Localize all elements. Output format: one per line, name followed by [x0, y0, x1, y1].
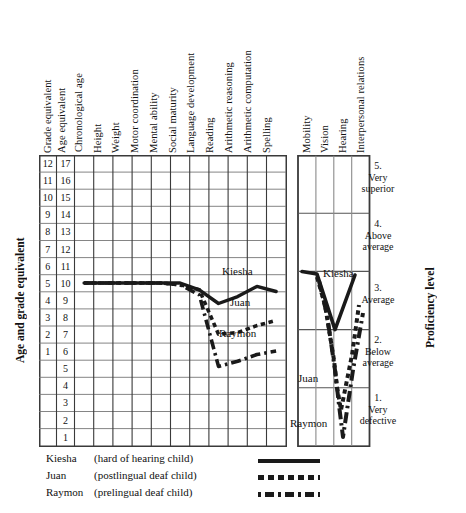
grade-cell: 7: [39, 241, 57, 258]
grade-cell: 5: [39, 275, 57, 292]
column-header-hearing: Hearing: [338, 108, 349, 153]
column-header-arithmetic-computation: Arithmetic computation: [243, 36, 254, 153]
age-cell: 3: [57, 394, 75, 411]
age-equivalent-header: Age equivalent: [57, 70, 68, 153]
age-cell: 5: [57, 360, 75, 377]
series-tag-raymon-right: Raymon: [290, 417, 327, 429]
series-tag-raymon-left: Raymon: [219, 327, 256, 339]
age-cell: 6: [57, 343, 75, 360]
age-cell: 15: [57, 189, 75, 206]
grade-cell: 4: [39, 292, 57, 309]
column-header-mental-ability: Mental ability: [149, 72, 160, 153]
age-cell: 1: [57, 429, 75, 446]
legend-name-juan: Juan: [46, 469, 66, 481]
age-cell: 4: [57, 377, 75, 394]
figure-root: Age and grade equivalent Proficiency lev…: [0, 0, 466, 513]
legend-swatch-dashdot-icon: [258, 492, 320, 497]
age-cell: 14: [57, 206, 75, 223]
grade-cell: 6: [39, 258, 57, 275]
series-tag-juan-right: Juan: [298, 372, 318, 384]
grade-equivalent-header: Grade equivalent: [43, 63, 54, 153]
series-tag-kiesha-left: Kiesha: [222, 265, 253, 277]
legend-desc-juan: (postlingual deaf child): [94, 469, 197, 481]
proficiency-level-2-line1: Below: [336, 346, 420, 358]
series-tag-kiesha-right: Kiesha: [323, 267, 354, 279]
grade-cell: 2: [39, 326, 57, 343]
proficiency-level-3-line1: Average: [336, 294, 420, 306]
grade-cell: 10: [39, 189, 57, 206]
proficiency-level-3: 3. Average: [336, 282, 420, 305]
proficiency-level-2-number: 2.: [336, 334, 420, 346]
column-header-motor-coordination: Motor coordination: [130, 52, 141, 153]
grade-cell: 12: [39, 155, 57, 172]
proficiency-level-4-line1: Above: [336, 230, 420, 242]
column-header-reading: Reading: [205, 104, 216, 153]
proficiency-level-5-number: 5.: [336, 160, 420, 172]
proficiency-level-4-number: 4.: [336, 218, 420, 230]
proficiency-level-5-line2: superior: [336, 183, 420, 195]
legend-name-raymon: Raymon: [46, 486, 83, 498]
age-cell: 9: [57, 292, 75, 309]
column-header-vision: Vision: [320, 113, 331, 153]
proficiency-level-1-number: 1.: [336, 392, 420, 404]
column-header-language-development: Language development: [186, 40, 197, 153]
grade-cell: 9: [39, 206, 57, 223]
proficiency-level-3-number: 3.: [336, 282, 420, 294]
age-cell: 10: [57, 275, 75, 292]
age-cell: 2: [57, 412, 75, 429]
column-header-spelling: Spelling: [262, 106, 273, 153]
age-cell: 16: [57, 172, 75, 189]
age-cell: 12: [57, 241, 75, 258]
legend-desc-raymon: (prelingual deaf child): [94, 486, 192, 498]
grade-cell: 1: [39, 343, 57, 360]
legend-row-kiesha: Kiesha (hard of hearing child): [46, 452, 346, 469]
column-header-arithmetic-reasoning: Arithmetic reasoning: [224, 43, 235, 153]
proficiency-level-5-line1: Very: [336, 172, 420, 184]
column-header-height: Height: [93, 110, 104, 153]
grade-cell: 11: [39, 172, 57, 189]
proficiency-level-4-line2: average: [336, 241, 420, 253]
column-header-mobility: Mobility: [302, 104, 313, 153]
age-cell: 8: [57, 309, 75, 326]
legend-swatch-solid-icon: [258, 459, 320, 463]
proficiency-level-2-line2: average: [336, 357, 420, 369]
right-axis-title: Proficiency level: [424, 228, 436, 348]
age-cell: 17: [57, 155, 75, 172]
left-axis-title: Age and grade equivalent: [14, 243, 26, 363]
proficiency-level-1-line1: Very: [336, 404, 420, 416]
legend-row-juan: Juan (postlingual deaf child): [46, 469, 346, 486]
column-header-social-maturity: Social maturity: [168, 71, 179, 153]
age-cell: 7: [57, 326, 75, 343]
column-header-interpersonal-relations: Interpersonal relations: [356, 50, 367, 153]
proficiency-level-2: 2. Below average: [336, 334, 420, 369]
proficiency-level-1: 1. Very defective: [336, 392, 420, 427]
proficiency-level-4: 4. Above average: [336, 218, 420, 253]
column-header-weight: Weight: [111, 109, 122, 153]
legend-swatch-dotted-icon: [258, 475, 320, 480]
legend-row-raymon: Raymon (prelingual deaf child): [46, 486, 346, 503]
legend-desc-kiesha: (hard of hearing child): [94, 452, 193, 464]
column-header-chronological-age: Chronological age: [74, 52, 85, 152]
legend: Kiesha (hard of hearing child) Juan (pos…: [46, 452, 346, 503]
grade-cell: 3: [39, 309, 57, 326]
legend-name-kiesha: Kiesha: [46, 452, 77, 464]
series-tag-juan-left: Juan: [230, 296, 250, 308]
proficiency-level-5: 5. Very superior: [336, 160, 420, 195]
age-cell: 13: [57, 223, 75, 240]
proficiency-level-1-line2: defective: [336, 415, 420, 427]
age-cell: 11: [57, 258, 75, 275]
grade-cell: 8: [39, 223, 57, 240]
